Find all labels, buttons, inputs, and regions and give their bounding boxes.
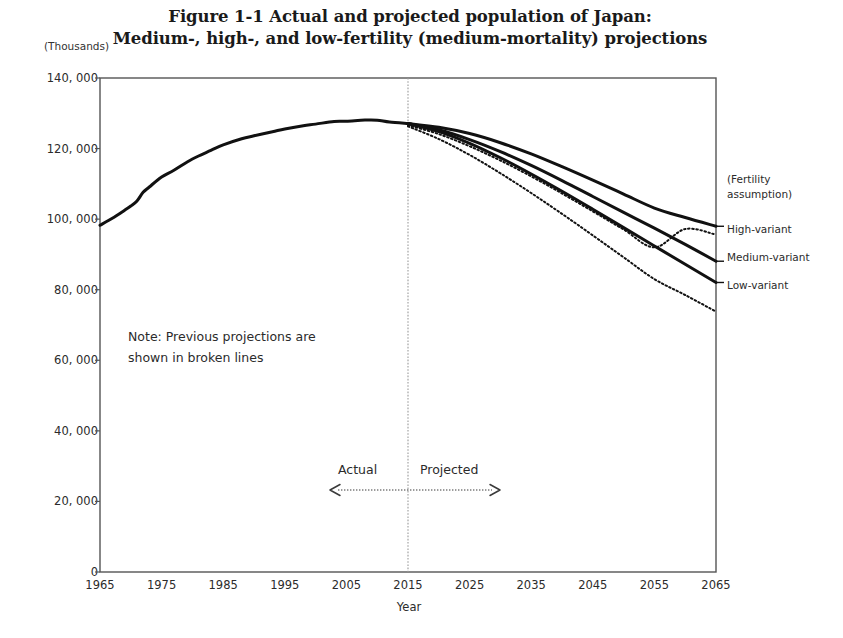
chart-note: Note: Previous projections are shown in … [128,326,316,368]
series-line-previous-projection-lower [408,126,716,311]
series-line-actual [100,120,408,225]
period-label-actual: Actual [338,462,377,477]
legend-entry-high: High-variant [727,222,810,237]
plot-area [0,0,843,638]
chart-note-line-2: shown in broken lines [128,350,263,365]
legend: (Fertility assumption) High-variant Medi… [727,172,810,306]
legend-entry-low: Low-variant [727,278,810,293]
figure-container: Figure 1-1 Actual and projected populati… [0,0,843,638]
legend-heading-line-2: assumption) [727,187,810,202]
period-label-projected: Projected [420,462,478,477]
series-line-high-variant [408,124,716,227]
legend-heading-line-1: (Fertility [727,172,810,187]
chart-note-line-1: Note: Previous projections are [128,329,316,344]
legend-entry-medium: Medium-variant [727,250,810,265]
legend-heading: (Fertility assumption) [727,172,810,202]
series-line-previous-projection-upper [408,125,716,247]
